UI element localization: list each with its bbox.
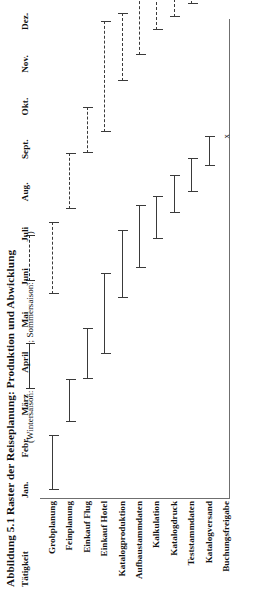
month-tick-dez: Dez. (20, 13, 30, 30)
month-tick-okt: Okt. (20, 98, 30, 116)
bar-cap-end (66, 153, 76, 154)
bar-cap-end (205, 136, 215, 137)
gantt-bar-wintersaison (191, 158, 192, 192)
bar-cap-end (188, 158, 198, 159)
gantt-bar-sommersaison (174, 0, 175, 17)
bar-cap-start (205, 165, 215, 166)
milestone-marker: x (221, 134, 231, 138)
activity-label-7: Kalkulation (151, 501, 161, 548)
bar-cap-start (136, 54, 146, 55)
bar-cap-start (136, 267, 146, 268)
bar-cap-end (170, 175, 180, 176)
activity-label-11: Buchungsfreigabe (221, 501, 231, 572)
gantt-bar-sommersaison (122, 13, 123, 81)
month-tick-jan: Jan. (20, 482, 30, 499)
activity-label-4: Einkauf Hotel (99, 501, 109, 556)
gantt-bar-wintersaison (87, 328, 88, 379)
bar-cap-start (66, 421, 76, 422)
bar-cap-start (49, 293, 59, 294)
gantt-bar-sommersaison (87, 107, 88, 154)
bar-cap-start (188, 191, 198, 192)
gantt-bar-wintersaison (209, 136, 210, 166)
bar-cap-start (66, 208, 76, 209)
gantt-bar-wintersaison (139, 205, 140, 269)
figure-gantt-reiseplanung: Abbildung 5.1 Raster der Reiseplanung: P… (0, 0, 279, 593)
gantt-bar-wintersaison (69, 379, 70, 422)
bar-cap-end (118, 230, 128, 231)
bar-cap-start (101, 353, 111, 354)
x-axis-line (229, 19, 230, 499)
bar-cap-end (101, 273, 111, 274)
bar-cap-start (83, 378, 93, 379)
bar-cap-end (83, 328, 93, 329)
month-tick-mai: Mai (20, 312, 30, 328)
month-tick-juni: Juni (20, 268, 30, 285)
bar-cap-end (153, 196, 163, 197)
activity-label-2: Feinplanung (64, 501, 74, 551)
bar-cap-start (153, 238, 163, 239)
month-tick-april: April (20, 352, 30, 373)
activity-label-8: Katalogdruck (169, 501, 179, 556)
bar-cap-start (101, 131, 111, 132)
month-tick-sept: Sept. (20, 139, 30, 159)
bar-cap-end (118, 13, 128, 14)
activity-label-3: Einkauf Flug (82, 501, 92, 553)
bar-cap-start (153, 29, 163, 30)
bar-cap-start (188, 3, 198, 4)
month-tick-aug: Aug. (20, 182, 30, 201)
gantt-bar-wintersaison (156, 196, 157, 239)
bar-cap-start (49, 489, 59, 490)
activity-label-9: Teststammdaten (186, 501, 196, 565)
gantt-bar-sommersaison (191, 0, 192, 4)
month-tick-juli: Juli (20, 227, 30, 242)
gantt-bar-wintersaison (52, 435, 53, 490)
month-tick-mrz: März (20, 394, 30, 415)
bar-cap-end (101, 21, 111, 22)
gantt-bar-sommersaison (139, 0, 140, 55)
bar-cap-end (83, 107, 93, 108)
bar-cap-start (118, 80, 128, 81)
bar-cap-start (170, 16, 180, 17)
gantt-bar-wintersaison (174, 175, 175, 213)
activity-label-5: Katalogproduktion (117, 501, 127, 576)
activity-label-1: Grobplanung (47, 501, 57, 554)
month-tick-nov: Nov. (20, 55, 30, 73)
gantt-bar-sommersaison (69, 153, 70, 208)
gantt-bar-sommersaison (156, 0, 157, 30)
bar-cap-start (83, 152, 93, 153)
activity-label-6: Aufbaustammdaten (134, 501, 144, 579)
bar-cap-start (170, 212, 180, 213)
rotated-chart-canvas: Abbildung 5.1 Raster der Reiseplanung: P… (0, 0, 279, 593)
row-header-label: Tätigkeit (20, 551, 30, 587)
bar-cap-end (136, 205, 146, 206)
month-tick-febr: Febr. (20, 437, 30, 457)
bar-cap-end (49, 222, 59, 223)
bar-cap-end (49, 435, 59, 436)
gantt-bar-sommersaison (52, 222, 53, 294)
gantt-bar-wintersaison (104, 273, 105, 354)
bar-cap-end (66, 379, 76, 380)
gantt-bar-sommersaison (104, 21, 105, 132)
y-axis-line (40, 498, 230, 499)
figure-title: Abbildung 5.1 Raster der Reiseplanung: P… (4, 250, 16, 587)
activity-label-10: Katalogversand (204, 501, 214, 563)
gantt-bar-wintersaison (122, 230, 123, 298)
bar-cap-start (118, 297, 128, 298)
